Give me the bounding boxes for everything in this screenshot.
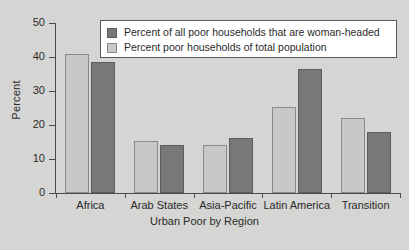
x-tick-mark — [194, 193, 195, 198]
legend-item-label: Percent poor households of total populat… — [124, 42, 327, 53]
x-tick-label: Asia-Pacific — [194, 199, 263, 211]
bar — [91, 62, 115, 193]
legend-item: Percent poor households of total populat… — [107, 40, 390, 55]
legend-item-label: Percent of all poor households that are … — [124, 27, 380, 38]
y-tick-label: 0 — [16, 187, 45, 198]
bar — [367, 132, 391, 193]
y-tick-mark — [49, 23, 56, 24]
y-tick-label: 10 — [16, 153, 45, 164]
x-tick-mark — [262, 193, 263, 198]
x-tick-label: Africa — [56, 199, 125, 211]
y-tick-mark — [49, 159, 56, 160]
x-tick-mark — [56, 193, 57, 198]
bar — [203, 145, 227, 193]
legend-swatch-icon — [107, 43, 117, 53]
bar-chart: 01020304050 Percent AfricaArab StatesAsi… — [0, 0, 409, 250]
bar — [272, 107, 296, 193]
bar — [160, 145, 184, 193]
chart-legend: Percent of all poor households that are … — [100, 20, 397, 58]
y-axis-title: Percent — [10, 70, 22, 130]
x-tick-mark — [400, 193, 401, 198]
bar — [229, 138, 253, 193]
x-tick-label: Transition — [331, 199, 400, 211]
bar — [298, 69, 322, 193]
bar — [341, 118, 365, 193]
x-tick-label: Latin America — [262, 199, 331, 211]
x-axis-line — [55, 193, 400, 194]
x-tick-mark — [331, 193, 332, 198]
y-tick-label: 50 — [16, 17, 45, 28]
legend-swatch-icon — [107, 28, 117, 38]
bar — [65, 54, 89, 193]
x-tick-label: Arab States — [125, 199, 194, 211]
legend-item: Percent of all poor households that are … — [107, 25, 390, 40]
y-tick-mark — [49, 57, 56, 58]
bar — [134, 141, 158, 193]
y-tick-mark — [49, 125, 56, 126]
y-tick-label: 40 — [16, 51, 45, 62]
x-axis-title: Urban Poor by Region — [0, 215, 409, 227]
x-tick-mark — [125, 193, 126, 198]
y-tick-mark — [49, 91, 56, 92]
